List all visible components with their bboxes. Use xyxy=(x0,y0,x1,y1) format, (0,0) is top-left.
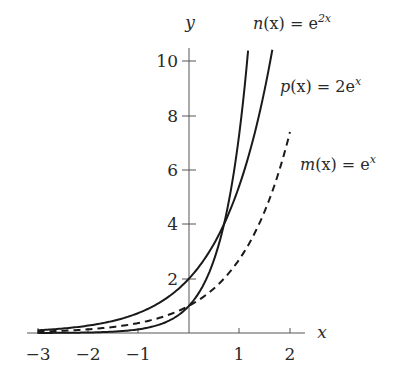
exponential-functions-chart: −3 −2 −1 1 2 2 4 6 8 10 x y n(x) = e2x p… xyxy=(0,0,400,391)
curve-p-2ex xyxy=(38,50,273,331)
x-axis-label: x xyxy=(317,322,327,342)
y-tick-label: 10 xyxy=(156,51,178,71)
label-m: m(x) = ex xyxy=(300,153,377,174)
y-tick-label: 4 xyxy=(167,214,178,234)
x-tick-label: 2 xyxy=(285,344,296,364)
x-tick-label: 1 xyxy=(234,344,245,364)
y-tick-label: 6 xyxy=(167,160,178,180)
y-axis-label: y xyxy=(184,12,195,32)
x-tick-label: −1 xyxy=(125,344,150,364)
curve-m-ex xyxy=(38,132,291,332)
label-p: p(x) = 2ex xyxy=(280,75,362,96)
y-tick-label: 8 xyxy=(167,106,178,126)
x-tick-label: −3 xyxy=(25,344,50,364)
curve-n-e2x xyxy=(38,51,249,333)
label-n: n(x) = e2x xyxy=(253,12,332,33)
y-tick-label: 2 xyxy=(167,269,178,289)
x-tick-label: −2 xyxy=(75,344,100,364)
